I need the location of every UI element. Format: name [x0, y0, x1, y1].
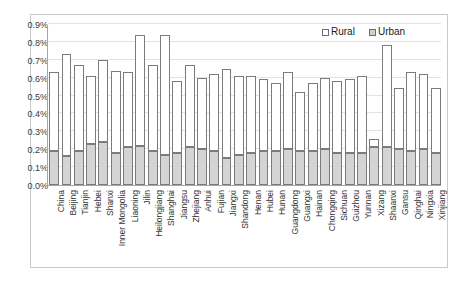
x-axis-tick: Yunnan — [364, 161, 373, 190]
x-axis-tick: Hunan — [278, 165, 287, 190]
bar-segment-rural — [246, 76, 256, 153]
x-axis-tick: Gansu — [401, 165, 410, 190]
x-axis-tick: Jiangxi — [229, 164, 238, 190]
x-axis-tick: Liaoning — [131, 158, 140, 190]
bar-segment-rural — [74, 65, 84, 151]
bar-segment-rural — [308, 83, 318, 151]
y-axis-tick: 0.3% — [10, 128, 48, 137]
bar-segment-rural — [49, 72, 59, 151]
bar-segment-rural — [431, 88, 441, 152]
x-axis-tick: Zhejiang — [192, 157, 201, 190]
bar-segment-rural — [406, 72, 416, 151]
stacked-bar-chart: 0.0%0.1%0.2%0.3%0.4%0.5%0.6%0.7%0.8%0.9%… — [0, 0, 457, 282]
y-axis-tick: 0.6% — [10, 75, 48, 84]
x-axis-tick: Jilin — [143, 175, 152, 190]
bar-segment-rural — [345, 79, 355, 152]
x-axis: ChinaBeijingTianjinHebeiShanxiInner Mong… — [47, 188, 441, 268]
bar-segment-rural — [197, 78, 207, 150]
x-axis-tick: Beijing — [69, 164, 78, 190]
x-axis-tick: China — [57, 168, 66, 190]
x-axis-tick: Xizang — [377, 164, 386, 190]
y-axis-tick: 0.0% — [10, 182, 48, 191]
bar-segment-rural — [135, 35, 145, 146]
bar-segment-rural — [357, 76, 367, 153]
x-axis-tick: Shaanxi — [389, 159, 398, 190]
bar-segment-rural — [234, 76, 244, 155]
y-axis-tick: 0.9% — [10, 21, 48, 30]
y-axis-tick: 0.7% — [10, 57, 48, 66]
bar-segment-rural — [222, 69, 232, 158]
x-axis-tick: Hebei — [94, 168, 103, 190]
x-axis-tick: Henan — [254, 165, 263, 190]
x-axis-tick: Shandong — [241, 151, 250, 190]
chart-legend: RuralUrban — [322, 27, 405, 37]
bar-segment-rural — [295, 92, 305, 151]
x-axis-tick: Hainan — [315, 163, 324, 190]
y-axis: 0.0%0.1%0.2%0.3%0.4%0.5%0.6%0.7%0.8%0.9% — [8, 18, 48, 196]
legend-label: Urban — [378, 27, 405, 37]
x-axis-tick: Chongqing — [328, 149, 337, 190]
x-axis-tick: Jiangsu — [180, 161, 189, 190]
y-axis-tick: 0.4% — [10, 110, 48, 119]
bar-segment-rural — [209, 74, 219, 151]
bar-segment-rural — [172, 81, 182, 153]
x-axis-tick: Tianjin — [81, 165, 90, 190]
x-axis-tick: Shanxi — [106, 164, 115, 190]
x-axis-tick: Shanghai — [167, 154, 176, 190]
bar-segment-rural — [160, 35, 170, 155]
y-axis-tick: 0.2% — [10, 146, 48, 155]
bar-segment-rural — [86, 76, 96, 144]
x-axis-tick: Xinjiang — [438, 160, 447, 190]
y-axis-tick: 0.1% — [10, 164, 48, 173]
legend-entry: Rural — [322, 27, 355, 37]
bar-segment-rural — [394, 88, 404, 149]
legend-swatch-urban — [369, 29, 376, 36]
x-axis-tick: Heilongjiang — [155, 143, 164, 190]
x-axis-tick: Qinghai — [414, 161, 423, 190]
bar-segment-rural — [382, 45, 392, 147]
y-axis-tick: 0.5% — [10, 93, 48, 102]
x-axis-tick: Hubei — [266, 168, 275, 190]
bar-segment-rural — [62, 54, 72, 156]
bar-segment-rural — [271, 83, 281, 151]
gridline — [48, 23, 441, 24]
legend-swatch-rural — [322, 29, 329, 36]
x-axis-tick: Guizhou — [352, 158, 361, 190]
x-axis-tick: Inner Mongolia — [118, 134, 127, 190]
bar-segment-rural — [369, 139, 379, 148]
bar-segment-rural — [332, 81, 342, 153]
bar-segment-rural — [185, 65, 195, 147]
x-axis-tick: Fujian — [217, 167, 226, 190]
x-axis-tick: Ningxia — [426, 162, 435, 190]
bar-segment-rural — [98, 60, 108, 142]
bar-segment-rural — [320, 78, 330, 150]
bar-segment-rural — [148, 65, 158, 151]
legend-entry: Urban — [369, 27, 405, 37]
bar-segment-rural — [259, 79, 269, 151]
x-axis-tick: Anhui — [204, 168, 213, 190]
x-axis-tick: Sichuan — [340, 159, 349, 190]
bar-segment-rural — [283, 72, 293, 149]
legend-label: Rural — [331, 27, 355, 37]
bar-segment-rural — [419, 74, 429, 149]
y-axis-tick: 0.8% — [10, 39, 48, 48]
x-axis-tick: Guangdong — [291, 146, 300, 190]
x-axis-tick: Guangxi — [303, 158, 312, 190]
